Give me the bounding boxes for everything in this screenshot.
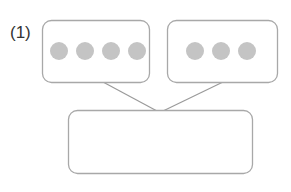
dot-icon xyxy=(76,42,94,60)
composition-diagram xyxy=(0,0,291,192)
dot-icon xyxy=(212,42,230,60)
connector-right-line xyxy=(163,82,223,111)
dot-icon xyxy=(50,42,68,60)
dot-icon xyxy=(128,42,146,60)
right-box xyxy=(168,21,278,83)
answer-box[interactable] xyxy=(69,111,253,174)
connector-left-line xyxy=(103,82,157,111)
dot-icon xyxy=(186,42,204,60)
dot-icon xyxy=(238,42,256,60)
dot-icon xyxy=(102,42,120,60)
left-box xyxy=(43,21,150,83)
